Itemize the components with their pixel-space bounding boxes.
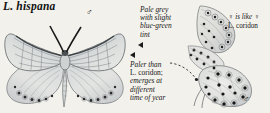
- callout-paler-arrow-icon: [130, 52, 135, 58]
- callout-pale-line4: tint: [140, 31, 188, 39]
- forewing-left: [5, 34, 63, 71]
- male-dorsal-svg: [2, 12, 128, 111]
- male-dorsal-illustration: [2, 12, 128, 111]
- page-title: L. hispana: [3, 0, 56, 13]
- female-symbol-a: ♀: [228, 13, 233, 21]
- male-symbol-dorsal: ♂: [86, 8, 93, 17]
- callout-paler-line5: time of year: [130, 94, 178, 102]
- callout-pale-grey: Pale grey with slight blue-green tint: [140, 6, 188, 39]
- forewing-right: [67, 34, 125, 71]
- is-like-text: is like: [235, 13, 252, 21]
- female-symbol-b: ♀: [254, 13, 259, 21]
- callout-paler-than: Paler than L. coridon; emerges at differ…: [130, 61, 178, 102]
- callout-female-like: ♀ is like ♀ L. coridon: [228, 13, 270, 30]
- field-guide-plate: L. hispana ♂ ♂ Pale grey with slight blu…: [0, 0, 270, 113]
- callout-female-line1: ♀ is like ♀: [228, 13, 270, 22]
- antennae: [50, 26, 81, 52]
- male-symbol-ventral: ♂: [243, 95, 250, 104]
- callout-pale-arrow-icon: [138, 42, 143, 48]
- callout-female-line2: L. coridon: [228, 22, 270, 31]
